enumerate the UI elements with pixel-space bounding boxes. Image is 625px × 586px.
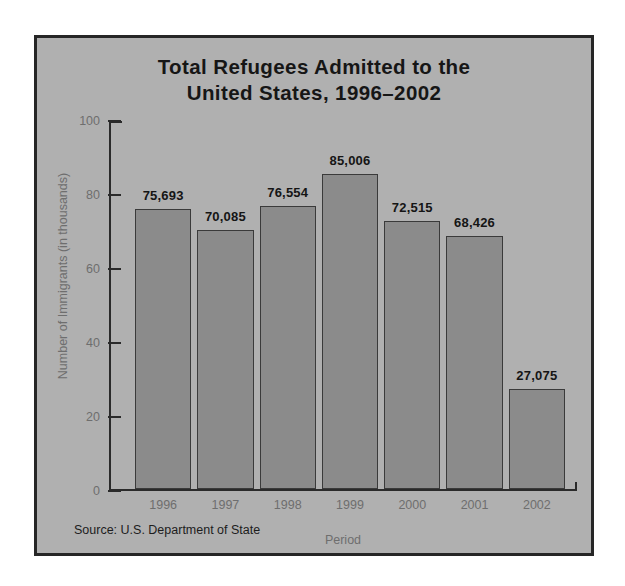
x-axis-tick-label: 2000 [398,498,426,512]
source-note: Source: U.S. Department of State [74,523,260,537]
y-axis-tick-label: 60 [86,262,100,276]
bar: 72,5152000 [384,221,440,489]
x-axis-tick-label: 1998 [274,498,302,512]
bar-value-label: 27,075 [516,368,557,383]
bar-value-label: 85,006 [330,153,371,168]
chart-panel: Total Refugees Admitted to the United St… [34,35,594,556]
y-axis-tick: 100 [108,120,121,122]
bar: 27,0752002 [509,389,565,489]
bar-value-label: 76,554 [267,185,308,200]
x-axis-tick-label: 1997 [212,498,240,512]
bar: 75,6931996 [135,209,191,489]
plot-area: 020406080100 75,693199670,085199776,5541… [109,121,577,491]
x-axis-right-cap [575,482,577,491]
y-axis-tick: 0 [108,490,121,492]
y-axis-tick-label: 0 [93,484,100,498]
y-axis-line [109,121,111,491]
bar-value-label: 68,426 [454,215,495,230]
x-axis-tick-label: 2002 [523,498,551,512]
y-axis-tick: 80 [108,194,121,196]
y-axis-tick: 20 [108,416,121,418]
y-axis-tick-label: 100 [79,114,100,128]
y-axis-title: Number of Immigrants (in thousands) [56,151,70,401]
y-axis-tick: 60 [108,268,121,270]
y-axis-tick-label: 80 [86,188,100,202]
bar: 70,0851997 [197,230,253,489]
x-axis-tick-label: 2001 [461,498,489,512]
x-axis-line [109,489,577,491]
bar: 68,4262001 [446,236,502,489]
bar-value-label: 75,693 [143,188,184,203]
y-axis-tick-label: 20 [86,410,100,424]
chart-page: Total Refugees Admitted to the United St… [0,0,625,586]
bar-value-label: 70,085 [205,209,246,224]
y-axis-tick: 40 [108,342,121,344]
x-axis-tick-label: 1999 [336,498,364,512]
bar-value-label: 72,515 [392,200,433,215]
y-axis-tick-label: 40 [86,336,100,350]
bar: 76,5541998 [260,206,316,489]
x-axis-tick-label: 1996 [149,498,177,512]
chart-title: Total Refugees Admitted to the United St… [37,54,591,106]
bar: 85,0061999 [322,174,378,489]
